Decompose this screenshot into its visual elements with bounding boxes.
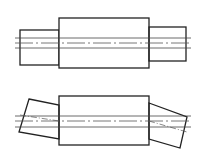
top-shaft-view xyxy=(15,18,191,68)
top-right-journal xyxy=(149,27,186,61)
bottom-center-body xyxy=(59,96,149,145)
bottom-left-journal-tilted xyxy=(19,99,59,139)
bottom-shaft-view xyxy=(15,96,191,148)
bottom-right-journal-tilted xyxy=(149,103,187,148)
right-tilted-axis xyxy=(149,121,187,132)
shaft-diagram xyxy=(0,0,202,164)
top-left-journal xyxy=(20,30,59,65)
